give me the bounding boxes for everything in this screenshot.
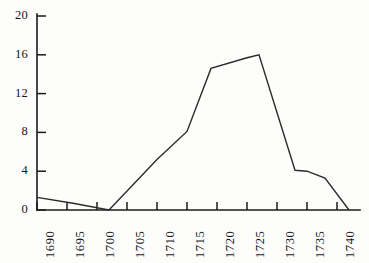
x-axis-tick-label: 1690	[43, 231, 58, 258]
axes-group	[37, 14, 360, 210]
x-axis-tick-label: 1725	[253, 231, 268, 258]
y-axis-tick-label: 20	[2, 8, 28, 23]
y-axis-tick-label: 8	[2, 124, 28, 139]
x-axis-tick-label: 1735	[313, 231, 328, 258]
x-axis-tick-label: 1700	[103, 231, 118, 258]
y-axis-tick-label: 16	[2, 47, 28, 62]
data-line-series-1	[37, 55, 349, 210]
y-ticks-group	[37, 16, 46, 210]
x-axis-tick-label: 1715	[193, 231, 208, 258]
x-axis-tick-label: 1740	[343, 231, 358, 258]
x-axis-tick-label: 1710	[163, 231, 178, 258]
x-axis-tick-label: 1695	[73, 231, 88, 258]
y-axis-tick-label: 12	[2, 86, 28, 101]
y-axis-tick-label: 4	[2, 163, 28, 178]
y-axis-tick-label: 0	[2, 202, 28, 217]
x-axis-tick-label: 1720	[223, 231, 238, 258]
data-series-group	[37, 55, 349, 210]
chart-figure: 048121620 169016951700170517101715172017…	[0, 0, 369, 263]
x-axis-tick-label: 1730	[283, 231, 298, 258]
x-axis-tick-label: 1705	[133, 231, 148, 258]
chart-plot-area	[0, 0, 369, 263]
x-ticks-group	[37, 202, 337, 210]
